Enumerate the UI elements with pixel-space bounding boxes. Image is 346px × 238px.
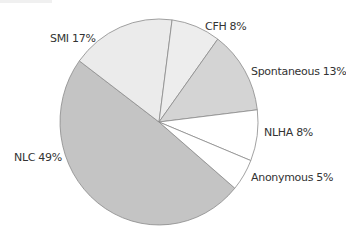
pie-chart: NLC 49% SMI 17% CFH 8% Spontaneous 13% N… (0, 0, 346, 238)
label-spontaneous: Spontaneous 13% (251, 65, 346, 78)
label-anonymous: Anonymous 5% (251, 171, 333, 184)
label-smi: SMI 17% (50, 32, 96, 45)
pie-slices (60, 19, 258, 225)
label-nlc: NLC 49% (14, 151, 62, 164)
label-cfh: CFH 8% (205, 20, 246, 33)
label-nlha: NLHA 8% (264, 126, 313, 139)
